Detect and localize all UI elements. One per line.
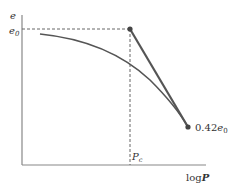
- e0-label: e0: [9, 25, 20, 38]
- e-logp-diagram: e e0 Pc logP 0.42e0: [0, 0, 239, 190]
- peak-point: [127, 26, 132, 31]
- end-point: [185, 124, 190, 129]
- compression-curve: [40, 34, 188, 127]
- x-axis-label: logP: [186, 172, 210, 183]
- virgin-compression-line: [130, 29, 188, 127]
- pc-label: Pc: [131, 151, 143, 164]
- y-axis-label: e: [10, 10, 16, 21]
- end-value-label: 0.42e0: [195, 122, 228, 135]
